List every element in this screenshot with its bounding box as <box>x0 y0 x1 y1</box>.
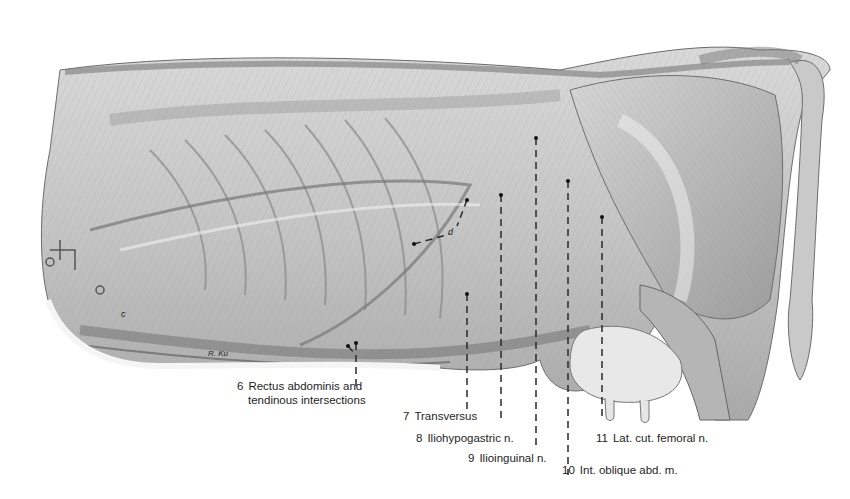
anatomical-illustration: d c R. Ku 6Rectus abdominis and tendinou… <box>0 0 850 499</box>
label-ilioinguinal-n: 9Ilioinguinal n. <box>468 452 547 465</box>
label-text: Iliohypogastric n. <box>427 432 513 444</box>
label-int-oblique-abd-m: 10Int. oblique abd. m. <box>562 464 678 477</box>
label-text: Lat. cut. femoral n. <box>613 432 708 444</box>
label-number: 8 <box>416 432 422 444</box>
label-number: 7 <box>403 410 409 422</box>
label-transversus: 7Transversus <box>403 410 477 423</box>
label-lat-cut-femoral-n: 11Lat. cut. femoral n. <box>596 432 708 445</box>
label-number: 6 <box>237 380 243 392</box>
cow-trunk-drawing <box>0 0 850 499</box>
label-iliohypogastric-n: 8Iliohypogastric n. <box>416 432 514 445</box>
label-text: Transversus <box>414 410 477 422</box>
label-text: Int. oblique abd. m. <box>580 464 678 476</box>
label-number: 9 <box>468 452 474 464</box>
label-rectus-abdominis-line2: tendinous intersections <box>248 394 366 407</box>
letter-d-marker: d <box>448 227 453 237</box>
label-text: Rectus abdominis and <box>248 380 362 392</box>
label-number: 10 <box>562 464 575 476</box>
label-rectus-abdominis: 6Rectus abdominis and <box>237 380 362 393</box>
letter-c-marker: c <box>121 309 126 319</box>
artist-signature: R. Ku <box>208 349 228 358</box>
label-text: Ilioinguinal n. <box>479 452 546 464</box>
label-number: 11 <box>596 432 608 444</box>
label-text: tendinous intersections <box>248 394 366 406</box>
